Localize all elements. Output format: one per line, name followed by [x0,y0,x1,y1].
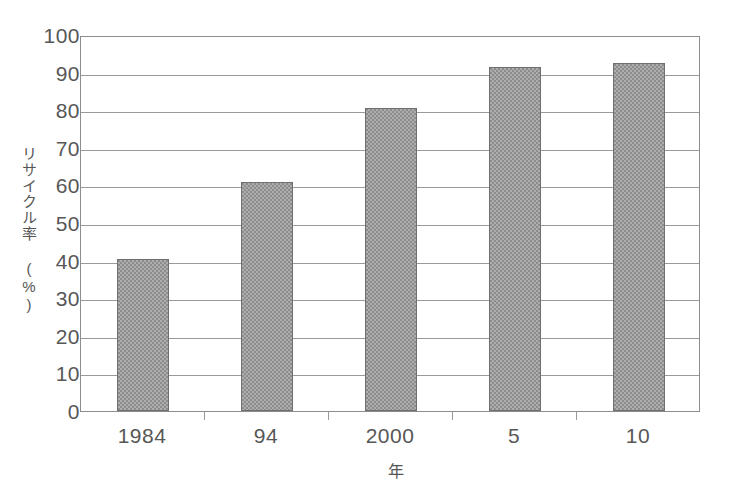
bar-slot [453,37,577,411]
x-axis-tickmarks [80,412,700,420]
y-tick-label: 60 [30,175,80,196]
y-tick-label: 0 [30,401,80,422]
x-tickmark [204,412,205,420]
x-tick-label: 1984 [118,424,167,448]
plot-area [80,36,700,412]
bar[interactable] [117,259,169,411]
bar[interactable] [241,182,293,411]
y-tick-label: 90 [30,63,80,84]
bar-slot [205,37,329,411]
bar-slot [329,37,453,411]
x-axis-title: 年 [0,458,731,482]
y-tick-label: 70 [30,138,80,159]
x-tick-label: 2000 [366,424,415,448]
bar[interactable] [613,63,665,411]
y-tick-label: 30 [30,288,80,309]
y-axis-tick-labels: 1009080706050403020100 [30,0,80,503]
bar[interactable] [489,67,541,411]
bars-layer [81,37,699,411]
y-tick-label: 80 [30,100,80,121]
y-tick-label: 50 [30,213,80,234]
y-tick-label: 10 [30,363,80,384]
x-tick-label: 5 [508,424,520,448]
bar-slot [81,37,205,411]
x-tickmark [452,412,453,420]
x-axis-tick-labels: 1984942000510 [80,424,700,454]
x-tick-label: 94 [254,424,278,448]
x-tickmark [328,412,329,420]
bar-slot [577,37,701,411]
y-tick-label: 20 [30,326,80,347]
x-tick-label: 10 [626,424,650,448]
bar[interactable] [365,108,417,411]
y-tick-label: 100 [30,25,80,46]
bar-chart-figure: リサイクル率 (%) 1009080706050403020100 198494… [0,0,731,503]
y-tick-label: 40 [30,251,80,272]
x-tickmark [576,412,577,420]
